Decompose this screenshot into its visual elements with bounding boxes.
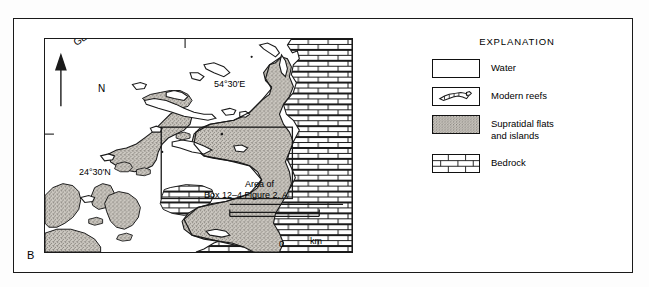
legend-label-water: Water xyxy=(491,59,516,74)
legend-panel: EXPLANATION Water Modern r xyxy=(432,36,622,182)
reef-glyph-icon xyxy=(433,88,479,105)
inset-label-line2: Box 12–4 Figure 2, A xyxy=(204,190,288,200)
brick-pattern-icon xyxy=(433,155,479,172)
legend-swatch-modern-reefs xyxy=(432,87,480,106)
north-arrow-label: N xyxy=(98,83,105,95)
legend-label-supratidal: Supratidal flats and islands xyxy=(491,115,554,142)
stipple-pattern-icon xyxy=(433,116,479,133)
legend-label-supratidal-line2: and islands xyxy=(491,130,554,142)
legend-title: EXPLANATION xyxy=(442,36,592,47)
island-small-2 xyxy=(136,168,150,176)
island-small-1 xyxy=(115,162,133,172)
legend-label-supratidal-line1: Supratidal flats xyxy=(491,118,554,130)
figure-root: B xyxy=(0,0,649,287)
inset-label-line1: Area of xyxy=(245,179,274,189)
reef-10 xyxy=(150,126,162,132)
legend-swatch-water xyxy=(432,59,480,78)
reef-dot-1 xyxy=(221,133,224,136)
legend-label-modern-reefs: Modern reefs xyxy=(491,87,547,102)
island-small-5 xyxy=(176,132,190,140)
reef-dot-3 xyxy=(251,56,253,58)
map-graphic xyxy=(45,39,352,252)
legend-item-modern-reefs: Modern reefs xyxy=(432,87,622,106)
legend-swatch-bedrock xyxy=(432,154,480,173)
legend-swatch-supratidal xyxy=(432,115,480,134)
longitude-label: 54°30′E xyxy=(214,79,245,89)
legend-item-water: Water xyxy=(432,59,622,78)
scale-unit-label: km xyxy=(310,236,322,246)
latitude-label: 24°30′N xyxy=(79,167,111,177)
panel-letter: B xyxy=(27,249,35,261)
island-small-3 xyxy=(89,217,103,225)
legend-item-bedrock: Bedrock xyxy=(432,154,622,173)
legend-item-supratidal: Supratidal flats and islands xyxy=(432,115,622,142)
scale-min-label: 0 xyxy=(279,239,284,249)
legend-label-bedrock: Bedrock xyxy=(491,154,526,169)
map-panel: 54°30′E 24°30′N N Persian Gulf Abu Dhabi… xyxy=(44,38,353,253)
